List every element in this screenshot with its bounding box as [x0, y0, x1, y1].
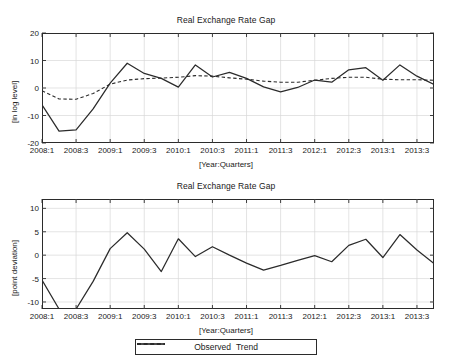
legend-item-observed[interactable]: Observed	[194, 342, 231, 352]
legend-label-observed: Observed	[194, 342, 231, 352]
series-line-observed	[42, 233, 434, 309]
series-layer-top	[0, 0, 452, 178]
legend-swatch-dashed-icon	[136, 340, 166, 348]
chart-panel-top: Real Exchange Rate Gap [in log level] 20…	[0, 0, 452, 178]
x-axis-label-bottom: [Year:Quarters]	[0, 326, 452, 335]
legend-item-trend[interactable]: Trend	[236, 342, 258, 352]
legend-label-trend: Trend	[236, 342, 258, 352]
legend: Observed Trend	[135, 339, 317, 355]
series-line-observed	[42, 63, 434, 131]
figure-root: Real Exchange Rate Gap [in log level] 20…	[0, 0, 452, 360]
x-axis-label-top: [Year:Quarters]	[0, 160, 452, 169]
chart-panel-bottom: Real Exchange Rate Gap [point deviation]…	[0, 178, 452, 360]
series-line-trend	[42, 76, 434, 100]
